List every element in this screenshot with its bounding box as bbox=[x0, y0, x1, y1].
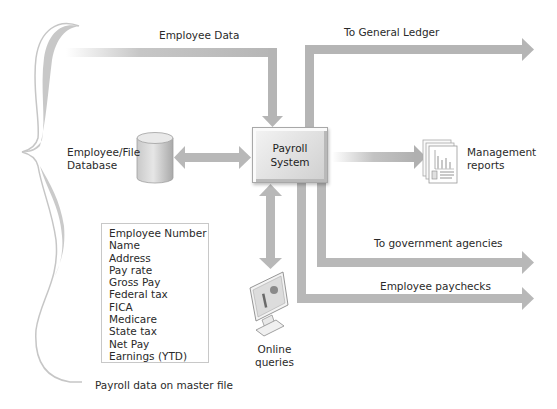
online-queries-line1: Online bbox=[255, 343, 294, 356]
reports-document-icon bbox=[423, 140, 457, 183]
master-file-caption: Payroll data on master file bbox=[95, 379, 233, 392]
master-file-fields-list: Employee Number Name Address Pay rate Gr… bbox=[101, 223, 209, 363]
field-item: Net Pay bbox=[109, 338, 208, 350]
payroll-system-line1: Payroll bbox=[273, 141, 308, 155]
field-item: FICA bbox=[109, 301, 208, 313]
management-reports-line2: reports bbox=[467, 159, 536, 172]
field-item: Pay rate bbox=[109, 264, 208, 276]
online-queries-line2: queries bbox=[255, 356, 294, 369]
field-item: Earnings (YTD) bbox=[109, 350, 208, 362]
database-payroll-arrow bbox=[174, 146, 251, 169]
database-cylinder-icon bbox=[137, 133, 173, 184]
management-reports-arrow bbox=[332, 145, 426, 169]
field-item: Medicare bbox=[109, 313, 208, 325]
payroll-system-box: Payroll System bbox=[252, 127, 328, 183]
field-item: Gross Pay bbox=[109, 276, 208, 288]
database-label-line2: Database bbox=[67, 159, 140, 172]
government-agencies-arrow bbox=[317, 183, 534, 274]
management-reports-label: Management reports bbox=[467, 146, 536, 172]
general-ledger-label: To General Ledger bbox=[344, 26, 439, 39]
online-queries-label: Online queries bbox=[255, 343, 294, 369]
field-item: State tax bbox=[109, 325, 208, 337]
field-item: Address bbox=[109, 252, 208, 264]
government-agencies-label: To government agencies bbox=[374, 237, 503, 250]
database-label-line1: Employee/File bbox=[67, 146, 140, 159]
computer-monitor-icon bbox=[250, 272, 288, 336]
employee-data-arrow bbox=[66, 48, 283, 127]
general-ledger-arrow bbox=[305, 38, 534, 127]
payroll-system-line2: System bbox=[270, 155, 309, 169]
master-file-brace bbox=[22, 24, 82, 382]
employee-paychecks-label: Employee paychecks bbox=[380, 280, 491, 293]
management-reports-line1: Management bbox=[467, 146, 536, 159]
field-item: Federal tax bbox=[109, 288, 208, 300]
online-queries-arrow bbox=[259, 184, 282, 269]
field-item: Name bbox=[109, 239, 208, 251]
employee-data-label: Employee Data bbox=[159, 29, 239, 42]
database-label: Employee/File Database bbox=[67, 146, 140, 172]
field-item: Employee Number bbox=[109, 227, 208, 239]
